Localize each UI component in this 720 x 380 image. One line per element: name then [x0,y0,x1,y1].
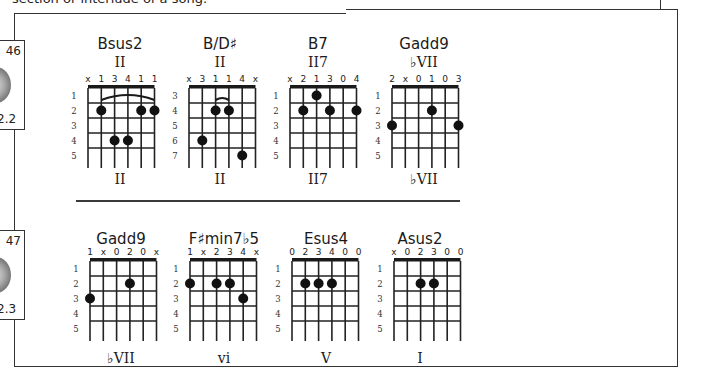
chord-name: Gadd9 [374,35,474,53]
chord-name: Esus4 [276,230,376,248]
track-number: 46 [6,44,21,58]
intro-text: section or interlude of a song. [12,0,207,6]
section-divider [76,200,460,202]
roman-numeral-top: II [70,53,170,71]
frame-line [677,9,678,366]
chord-name: F♯min7♭5 [174,230,274,248]
cd-icon [0,67,11,103]
roman-numeral-bottom: V [276,350,376,366]
roman-numeral-bottom: vi [174,350,274,366]
roman-numeral-top: II7 [268,53,368,71]
track-time: 2.2 [0,112,16,126]
chord-name: B7 [268,35,368,53]
roman-numeral-bottom: ♭VII [71,350,171,366]
chord-name: Gadd9 [71,230,171,248]
roman-numeral-bottom: I [370,350,470,366]
chord-name: Bsus2 [70,35,170,53]
roman-numeral-bottom: II [70,171,170,187]
roman-numeral-top: II [170,53,270,71]
chord-diagram-b-over-dsharp: B/D♯ II II [170,35,270,165]
chord-name: Asus2 [370,230,470,248]
chord-diagram-bsus2: Bsus2 II II [70,35,170,165]
chord-diagram-esus4: Esus4 V [276,230,376,350]
frame-line [660,0,661,9]
cd-track-tab[interactable]: 46 2.2 [0,40,25,130]
cd-track-tab[interactable]: 47 2.3 [0,230,25,320]
roman-numeral-top: ♭VII [374,53,474,71]
chord-diagram-asus2: Asus2 I [370,230,470,350]
track-number: 47 [6,234,21,248]
roman-numeral-bottom: II [170,171,270,187]
chord-diagram-b7: B7 II7 II7 [268,35,368,165]
cd-icon [0,257,11,293]
chord-diagram-gadd9-alt: Gadd9 ♭VII [71,230,171,350]
roman-numeral-bottom: II7 [268,171,368,187]
chord-diagram-gadd9: Gadd9 ♭VII ♭VII [374,35,474,165]
chord-diagram-fsharp-min7b5: F♯min7♭5 vi [174,230,274,350]
roman-numeral-bottom: ♭VII [374,171,474,187]
track-time: 2.3 [0,302,16,316]
frame-line [346,9,677,10]
chord-name: B/D♯ [170,35,270,53]
